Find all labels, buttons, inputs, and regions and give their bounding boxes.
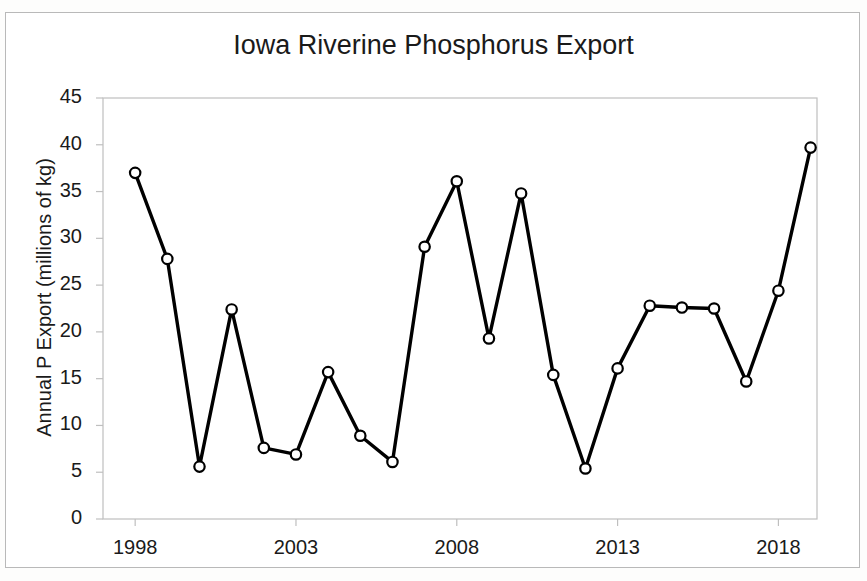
data-point-marker [773,286,783,296]
data-point-marker [130,168,140,178]
data-point-marker [194,461,204,471]
data-point-marker [645,300,655,310]
data-point-marker [226,304,236,314]
data-point-marker [387,457,397,467]
data-point-marker [323,367,333,377]
chart-figure: Iowa Riverine Phosphorus Export Annual P… [0,0,867,581]
data-point-marker [419,242,429,252]
data-point-marker [677,302,687,312]
data-point-marker [452,176,462,186]
data-point-marker [484,333,494,343]
data-point-marker [516,188,526,198]
data-point-marker [805,142,815,152]
data-point-marker [612,363,622,373]
data-point-marker [741,376,751,386]
data-point-marker [548,370,558,380]
data-point-marker [709,303,719,313]
data-point-marker [355,431,365,441]
line-plot [0,0,867,581]
data-point-marker [162,254,172,264]
data-point-marker [291,449,301,459]
data-point-marker [259,443,269,453]
plot-area: Annual P Export (millions of kg) 0510152… [0,0,867,581]
data-point-marker [580,463,590,473]
